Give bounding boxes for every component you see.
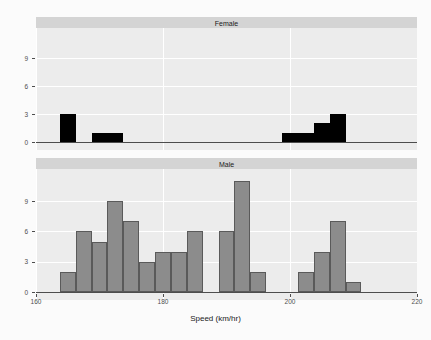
histogram-bar bbox=[346, 282, 362, 292]
y-tick-label: 9 bbox=[12, 198, 28, 205]
histogram-bar bbox=[314, 123, 330, 142]
plot-area-male bbox=[36, 169, 417, 300]
y-tick-label: 0 bbox=[12, 289, 28, 296]
y-tick-mark bbox=[32, 262, 35, 263]
histogram-bar bbox=[330, 221, 346, 292]
histogram-bar bbox=[234, 181, 250, 292]
histogram-bar bbox=[139, 262, 155, 292]
plot-area-female bbox=[36, 28, 417, 150]
histogram-bar bbox=[76, 231, 92, 292]
chart-root: Female 0369 Male 0369 160180200220 Speed… bbox=[0, 0, 431, 340]
histogram-bar bbox=[60, 114, 76, 142]
y-tick-mark bbox=[32, 142, 35, 143]
histogram-bar bbox=[60, 272, 76, 292]
gridline-horizontal bbox=[36, 114, 417, 115]
gridline-vertical bbox=[36, 169, 37, 300]
histogram-bar bbox=[187, 231, 203, 292]
histogram-bar bbox=[282, 133, 298, 142]
x-axis-title: Speed (km/hr) bbox=[0, 314, 431, 323]
histogram-bar bbox=[330, 114, 346, 142]
gridline-horizontal bbox=[36, 201, 417, 202]
y-tick-label: 6 bbox=[12, 83, 28, 90]
x-tick-label: 200 bbox=[279, 298, 301, 306]
histogram-bar bbox=[155, 252, 171, 292]
x-tick-label: 180 bbox=[152, 298, 174, 306]
x-tick-label: 220 bbox=[406, 298, 428, 306]
histogram-bar bbox=[107, 133, 123, 142]
axis-baseline bbox=[36, 142, 417, 143]
gridline-horizontal bbox=[36, 58, 417, 59]
histogram-bar bbox=[219, 231, 235, 292]
x-tick-mark bbox=[36, 294, 37, 297]
axis-baseline bbox=[36, 292, 417, 293]
x-tick-mark bbox=[290, 294, 291, 297]
histogram-bar bbox=[314, 252, 330, 292]
gridline-vertical bbox=[36, 28, 37, 150]
x-tick-mark bbox=[417, 294, 418, 297]
histogram-bar bbox=[298, 133, 314, 142]
strip-label-female: Female bbox=[36, 17, 417, 28]
y-tick-label: 0 bbox=[12, 139, 28, 146]
y-tick-mark bbox=[32, 201, 35, 202]
x-tick-mark bbox=[163, 294, 164, 297]
y-tick-mark bbox=[32, 86, 35, 87]
y-tick-label: 3 bbox=[12, 258, 28, 265]
histogram-bar bbox=[171, 252, 187, 292]
histogram-bar bbox=[107, 201, 123, 292]
y-tick-mark bbox=[32, 292, 35, 293]
histogram-bar bbox=[250, 272, 266, 292]
y-tick-mark bbox=[32, 114, 35, 115]
gridline-vertical bbox=[290, 28, 291, 150]
histogram-bar bbox=[92, 242, 108, 292]
gridline-vertical bbox=[163, 28, 164, 150]
histogram-bar bbox=[123, 221, 139, 292]
y-tick-label: 6 bbox=[12, 228, 28, 235]
strip-label-male: Male bbox=[36, 158, 417, 169]
y-tick-label: 9 bbox=[12, 55, 28, 62]
y-tick-mark bbox=[32, 231, 35, 232]
y-tick-mark bbox=[32, 58, 35, 59]
histogram-bar bbox=[92, 133, 108, 142]
x-tick-label: 160 bbox=[25, 298, 47, 306]
y-tick-label: 3 bbox=[12, 111, 28, 118]
gridline-vertical bbox=[290, 169, 291, 300]
histogram-bar bbox=[298, 272, 314, 292]
gridline-horizontal bbox=[36, 86, 417, 87]
